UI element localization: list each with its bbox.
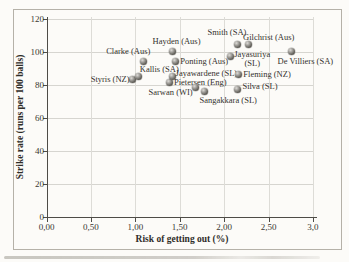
data-point-label: Styris (NZ) [91, 75, 130, 84]
data-point-label: Sangakkara (SL) [200, 96, 257, 105]
x-tick-label: 0,00 [32, 222, 62, 232]
x-tick-label: 2,00 [209, 222, 239, 232]
data-point-label: Pietersen (Eng) [174, 77, 227, 86]
data-point-label: Sarwan (WI) [149, 88, 193, 97]
data-point-marker [201, 88, 208, 95]
data-point-marker [235, 71, 242, 78]
gridline-vertical [91, 17, 92, 217]
x-axis-line [47, 217, 317, 218]
data-point-marker [245, 41, 252, 48]
data-point-label: Gilchrist (Aus) [243, 33, 294, 42]
x-tick-label: 1,50 [165, 222, 195, 232]
x-tick-label: 0,50 [76, 222, 106, 232]
data-point-label: Jayasuriya(SL) [234, 51, 270, 69]
gridline-vertical [180, 17, 181, 217]
data-point-marker [227, 53, 234, 60]
x-tick-label: 3,0 [298, 222, 328, 232]
data-point-label: Silva (SL) [242, 82, 277, 91]
x-tick-label: 1,00 [120, 222, 150, 232]
scanned-chart-figure: 0204060801001200,000,501,001,502,002,503… [0, 0, 349, 262]
y-axis-title: Strike rate (runs per 100 balls) [15, 17, 27, 217]
y-axis-line [47, 17, 48, 218]
gridline-vertical [313, 17, 314, 217]
data-point-label: Clarke (Aus) [106, 47, 150, 56]
gridline-vertical [224, 17, 225, 217]
scan-artifact [4, 256, 320, 259]
data-point-label: Smith (SA) [207, 28, 246, 37]
data-point-marker [140, 58, 147, 65]
data-point-marker [172, 58, 179, 65]
data-point-label: Jayawardene (SL) [176, 69, 238, 78]
data-point-label: Hayden (Aus) [153, 37, 201, 46]
data-point-marker [234, 86, 241, 93]
data-point-label: Ponting (Aus) [180, 57, 228, 66]
gridline-vertical [269, 17, 270, 217]
x-tick-label: 2,50 [254, 222, 284, 232]
x-axis-title: Risk of getting out (%) [47, 234, 317, 244]
data-point-label: De Villiers (SA) [278, 57, 334, 66]
data-point-label: Fleming (NZ) [243, 69, 290, 78]
